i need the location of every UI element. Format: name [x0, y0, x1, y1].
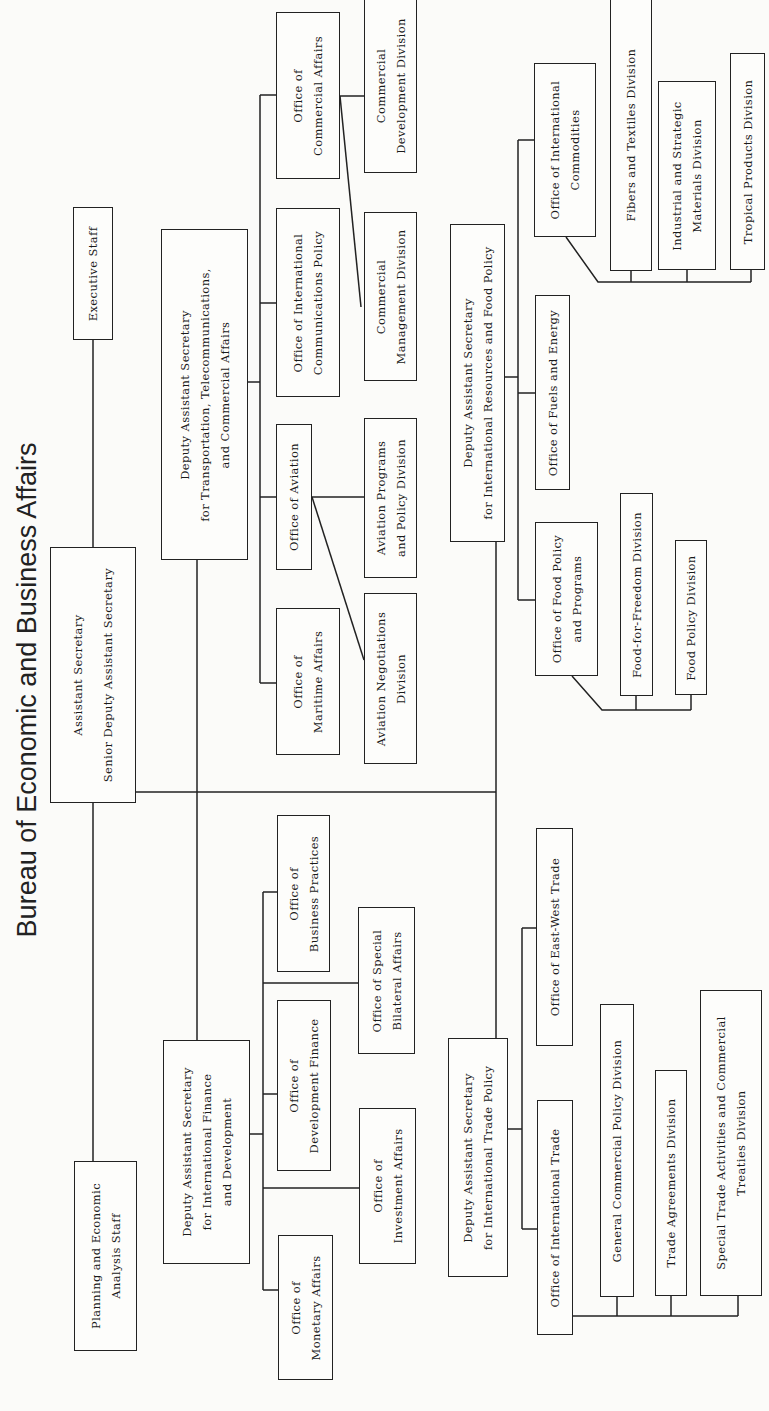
- commercial-management-line1: Commercial: [371, 229, 391, 364]
- general-commercial-line1: General Commercial Policy Division: [607, 1039, 627, 1262]
- box-office-commodities: Office of International Commodities: [534, 63, 596, 237]
- box-das-trade: Deputy Assistant Secretary for Internati…: [448, 1038, 508, 1277]
- planning-staff-line2: Analysis Staff: [106, 1183, 126, 1329]
- box-aviation-negotiations: Aviation Negotiations Division: [364, 593, 417, 764]
- fibers-line1: Fibers and Textiles Division: [621, 48, 641, 221]
- aviation-negotiations-line2: Division: [391, 611, 411, 745]
- box-commercial-development: Commercial Development Division: [364, 0, 417, 173]
- das-finance-line1: Deputy Assistant Secretary: [177, 1067, 197, 1237]
- special-trade-line2: Treaties Division: [731, 1016, 751, 1269]
- box-industrial-strategic: Industrial and Strategic Materials Divis…: [658, 81, 716, 270]
- planning-staff-line1: Planning and Economic: [86, 1183, 106, 1329]
- das-finance-line3: and Development: [217, 1067, 237, 1237]
- box-office-development-finance: Office of Development Finance: [277, 1000, 331, 1171]
- box-aviation-programs: Aviation Programs and Policy Division: [364, 418, 417, 578]
- das-transport-line2: for Transportation, Telecommunications,: [195, 268, 215, 522]
- commercial-line1: Office of: [288, 36, 308, 156]
- commercial-development-line2: Development Division: [391, 18, 411, 154]
- box-tropical-products: Tropical Products Division: [730, 53, 765, 270]
- senior-deputy-label: Senior Deputy Assistant Secretary: [93, 568, 123, 782]
- commercial-development-line1: Commercial: [371, 18, 391, 154]
- aviation-programs-line2: and Policy Division: [391, 439, 411, 557]
- box-office-food: Office of Food Policy and Programs: [535, 522, 598, 676]
- das-finance-line2: for International Finance: [197, 1067, 217, 1237]
- maritime-line2: Maritime Affairs: [308, 630, 328, 732]
- tropical-line1: Tropical Products Division: [738, 79, 758, 244]
- food-office-line1: Office of Food Policy: [547, 535, 567, 663]
- trade-agreements-line1: Trade Agreements Division: [661, 1099, 681, 1268]
- commodities-line2: Commodities: [565, 81, 585, 220]
- box-planning-staff: Planning and Economic Analysis Staff: [74, 1161, 137, 1351]
- commercial-management-line2: Management Division: [391, 229, 411, 364]
- box-assistant-secretary: Assistant Secretary Senior Deputy Assist…: [50, 547, 136, 803]
- box-office-international-trade: Office of International Trade: [537, 1100, 573, 1335]
- box-special-trade-activities: Special Trade Activities and Commercial …: [700, 990, 762, 1296]
- chart-title: Bureau of Economic and Business Affairs: [2, 420, 52, 960]
- das-transport-line1: Deputy Assistant Secretary: [175, 268, 195, 522]
- box-office-business-practices: Office of Business Practices: [277, 815, 330, 972]
- box-das-finance: Deputy Assistant Secretary for Internati…: [163, 1040, 250, 1264]
- investment-line1: Office of: [368, 1129, 388, 1244]
- aviation-line1: Office of Aviation: [284, 443, 304, 551]
- executive-staff-label: Executive Staff: [83, 226, 103, 321]
- development-finance-line1: Office of: [284, 1018, 304, 1153]
- food-for-freedom-line1: Food-for-Freedom Division: [627, 512, 647, 678]
- das-trade-line2: for International Trade Policy: [478, 1065, 498, 1250]
- aviation-programs-line1: Aviation Programs: [371, 439, 391, 557]
- box-das-resources: Deputy Assistant Secretary for Internati…: [450, 224, 505, 542]
- box-office-east-west: Office of East-West Trade: [536, 828, 573, 1046]
- monetary-line1: Office of: [286, 1255, 306, 1360]
- box-food-policy-division: Food Policy Division: [675, 540, 707, 695]
- box-general-commercial-policy: General Commercial Policy Division: [600, 1004, 634, 1297]
- special-bilateral-line2: Bilateral Affairs: [387, 929, 407, 1032]
- industrial-line2: Materials Division: [687, 101, 707, 250]
- investment-line2: Investment Affairs: [388, 1129, 408, 1244]
- business-practices-line2: Business Practices: [304, 835, 324, 951]
- assistant-secretary-label: Assistant Secretary: [63, 568, 93, 782]
- box-office-commercial: Office of Commercial Affairs: [276, 12, 340, 179]
- development-finance-line2: Development Finance: [304, 1018, 324, 1153]
- box-executive-staff: Executive Staff: [73, 207, 113, 340]
- special-bilateral-line1: Office of Special: [367, 929, 387, 1032]
- commodities-line1: Office of International: [545, 81, 565, 220]
- box-fibers-textiles: Fibers and Textiles Division: [610, 0, 652, 271]
- monetary-line2: Monetary Affairs: [306, 1255, 326, 1360]
- communications-line1: Office of International: [288, 230, 308, 374]
- maritime-line1: Office of: [288, 630, 308, 732]
- box-office-communications: Office of International Communications P…: [276, 208, 340, 397]
- box-office-fuels: Office of Fuels and Energy: [535, 295, 570, 490]
- international-trade-line1: Office of International Trade: [545, 1128, 565, 1307]
- communications-line2: Communications Policy: [308, 230, 328, 374]
- food-office-line2: and Programs: [567, 535, 587, 663]
- box-commercial-management: Commercial Management Division: [364, 212, 417, 381]
- box-trade-agreements: Trade Agreements Division: [655, 1070, 687, 1296]
- box-das-transportation: Deputy Assistant Secretary for Transport…: [161, 229, 248, 560]
- box-office-maritime: Office of Maritime Affairs: [276, 608, 340, 755]
- box-office-aviation: Office of Aviation: [276, 424, 312, 570]
- das-trade-line1: Deputy Assistant Secretary: [458, 1065, 478, 1250]
- box-office-special-bilateral: Office of Special Bilateral Affairs: [358, 907, 415, 1054]
- das-transport-line3: and Commercial Affairs: [215, 268, 235, 522]
- das-resources-line1: Deputy Assistant Secretary: [458, 246, 478, 519]
- business-practices-line1: Office of: [284, 835, 304, 951]
- box-food-for-freedom: Food-for-Freedom Division: [620, 493, 653, 696]
- east-west-line1: Office of East-West Trade: [545, 858, 565, 1016]
- commercial-line2: Commercial Affairs: [308, 36, 328, 156]
- box-office-investment: Office of Investment Affairs: [359, 1108, 416, 1264]
- chart-title-text: Bureau of Economic and Business Affairs: [12, 443, 43, 938]
- special-trade-line1: Special Trade Activities and Commercial: [711, 1016, 731, 1269]
- industrial-line1: Industrial and Strategic: [667, 101, 687, 250]
- food-policy-line1: Food Policy Division: [681, 555, 701, 680]
- fuels-line1: Office of Fuels and Energy: [543, 309, 563, 475]
- box-office-monetary: Office of Monetary Affairs: [278, 1235, 333, 1380]
- aviation-negotiations-line1: Aviation Negotiations: [371, 611, 391, 745]
- das-resources-line2: for International Resources and Food Pol…: [478, 246, 498, 519]
